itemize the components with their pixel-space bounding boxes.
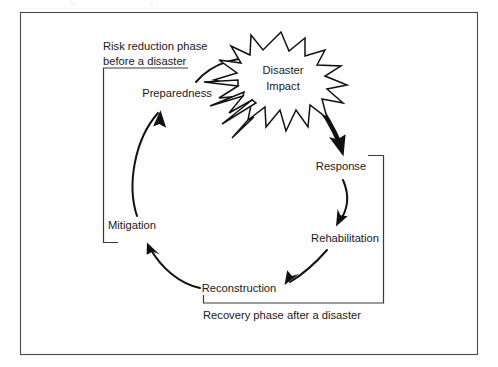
arrow-rehabilitation-to-reconstruction: [285, 250, 328, 285]
annotation-recovery-phase: Recovery phase after a disaster: [203, 309, 361, 321]
disaster-management-figure: Preparedness Disaster Impact Response Re…: [0, 0, 498, 367]
node-label-disaster-impact-line1: Disaster: [262, 64, 303, 76]
annotation-risk-phase-line1: Risk reduction phase: [103, 40, 207, 52]
node-label-rehabilitation: Rehabilitation: [311, 232, 379, 244]
node-label-preparedness: Preparedness: [142, 87, 212, 99]
arrow-mitigation-to-preparedness: [133, 110, 167, 216]
diagram-canvas: Preparedness Disaster Impact Response Re…: [0, 0, 498, 367]
scan-artifact: [20, 1, 478, 9]
arrow-response-to-rehabilitation: [336, 180, 348, 227]
node-label-response: Response: [316, 160, 366, 172]
annotation-risk-phase-line2: before a disaster: [103, 55, 187, 67]
node-label-disaster-impact-line2: Impact: [266, 80, 300, 92]
arrow-reconstruction-to-mitigation: [147, 243, 200, 289]
node-label-mitigation: Mitigation: [108, 219, 156, 231]
node-label-reconstruction: Reconstruction: [202, 282, 277, 294]
